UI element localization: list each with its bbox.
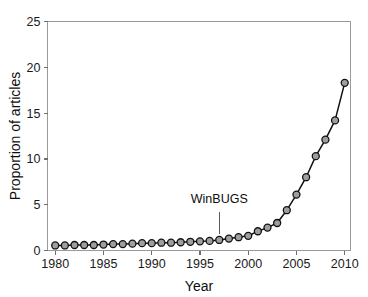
data-point-marker [81, 242, 88, 249]
y-axis-title: Proportion of articles [7, 72, 23, 200]
data-point-marker [196, 238, 203, 245]
data-point-marker [119, 241, 126, 248]
data-point-marker [312, 153, 319, 160]
x-tick-label: 1990 [138, 257, 166, 271]
data-point-marker [110, 241, 117, 248]
x-tick-label: 2005 [283, 257, 311, 271]
data-point-marker [283, 207, 290, 214]
y-tick-label: 5 [34, 198, 41, 212]
x-tick-label: 1980 [41, 257, 69, 271]
x-tick-label: 2010 [331, 257, 359, 271]
data-point-marker [158, 239, 165, 246]
x-tick-label: 1985 [90, 257, 118, 271]
y-tick-label: 0 [34, 244, 41, 258]
data-point-marker [216, 236, 223, 243]
data-point-marker [245, 232, 252, 239]
data-point-marker [264, 224, 271, 231]
x-tick-label: 1995 [186, 257, 214, 271]
data-point-marker [341, 79, 348, 86]
data-point-marker [61, 242, 68, 249]
data-point-marker [90, 242, 97, 249]
y-tick-label: 15 [27, 107, 41, 121]
data-point-marker [322, 136, 329, 143]
data-point-marker [129, 240, 136, 247]
data-point-marker [139, 240, 146, 247]
y-tick-label: 25 [27, 15, 41, 29]
data-point-marker [225, 235, 232, 242]
data-point-marker [52, 242, 59, 249]
data-point-marker [274, 220, 281, 227]
data-point-marker [168, 239, 175, 246]
annotation-label-winbugs: WinBUGS [191, 192, 248, 206]
data-point-marker [293, 191, 300, 198]
data-point-marker [206, 237, 213, 244]
data-point-marker [254, 228, 261, 235]
data-point-marker [303, 174, 310, 181]
x-tick-label: 2000 [234, 257, 262, 271]
figure-container: 0510152025 1980198519901995200020052010 … [0, 0, 368, 297]
data-point-marker [177, 239, 184, 246]
y-tick-label: 20 [27, 61, 41, 75]
data-point-marker [148, 240, 155, 247]
x-axis-title: Year [185, 278, 214, 294]
data-point-marker [71, 242, 78, 249]
data-point-marker [187, 238, 194, 245]
y-tick-label: 10 [27, 152, 41, 166]
data-point-marker [235, 234, 242, 241]
data-point-marker [332, 117, 339, 124]
proportion-of-articles-line-chart: 0510152025 1980198519901995200020052010 … [0, 0, 368, 297]
data-point-marker [100, 241, 107, 248]
